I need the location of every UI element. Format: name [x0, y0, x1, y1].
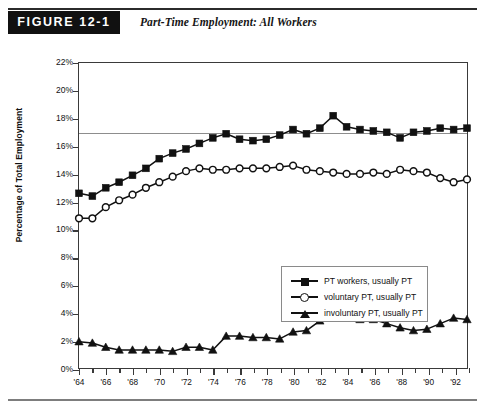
- x-tick: [375, 368, 376, 375]
- data-point: [437, 125, 444, 132]
- data-point: [370, 128, 377, 135]
- data-point: [316, 168, 323, 175]
- x-tick: [361, 368, 362, 373]
- x-tick-label: '64: [74, 377, 85, 387]
- x-tick: [79, 368, 80, 375]
- data-point: [464, 125, 471, 132]
- data-point: [343, 123, 350, 130]
- x-tick-label: '82: [316, 377, 327, 387]
- x-tick: [429, 368, 430, 375]
- x-tick: [456, 368, 457, 375]
- data-point: [357, 126, 364, 133]
- data-point: [370, 169, 377, 176]
- data-point: [410, 168, 417, 175]
- figure-number-label: FIGURE 12-1: [17, 16, 110, 29]
- data-point: [129, 172, 136, 179]
- data-point: [156, 179, 163, 186]
- data-point: [437, 175, 444, 182]
- series-square-filled: [76, 112, 471, 199]
- x-tick: [281, 368, 282, 373]
- data-point: [290, 126, 297, 133]
- legend-item-involuntary-pt: involuntary PT, usually PT: [282, 305, 427, 321]
- data-point: [76, 190, 83, 197]
- data-point: [89, 193, 96, 200]
- x-tick: [335, 368, 336, 373]
- data-point: [383, 129, 390, 136]
- data-point: [89, 215, 96, 222]
- triangle-marker-icon: [291, 306, 318, 320]
- x-tick: [321, 368, 322, 375]
- x-tick-label: '88: [396, 377, 407, 387]
- data-point: [183, 168, 190, 175]
- x-tick-label: '78: [262, 377, 273, 387]
- x-tick: [200, 368, 201, 373]
- x-tick-label: '90: [423, 377, 434, 387]
- x-tick: [469, 368, 470, 373]
- data-point: [196, 165, 203, 172]
- x-tick: [133, 368, 134, 375]
- data-point: [410, 129, 417, 136]
- x-tick-label: '84: [343, 377, 354, 387]
- figure-header: FIGURE 12-1 Part-Time Employment: All Wo…: [0, 0, 485, 44]
- data-point: [223, 130, 230, 137]
- plot-area: 0%2%4%6%8%10%12%14%16%18%20%22% '64'66'6…: [78, 62, 468, 369]
- x-tick: [442, 368, 443, 373]
- data-point: [276, 164, 283, 171]
- data-point: [250, 165, 257, 172]
- x-tick: [308, 368, 309, 373]
- data-point: [143, 165, 150, 172]
- series-plot: [79, 63, 467, 368]
- data-point: [302, 326, 310, 333]
- x-tick: [348, 368, 349, 375]
- data-point: [102, 184, 109, 191]
- data-point: [116, 197, 123, 204]
- x-tick-label: '72: [181, 377, 192, 387]
- y-tick-label: 6%: [41, 280, 73, 290]
- x-tick-label: '74: [208, 377, 219, 387]
- header-rule: [8, 8, 477, 10]
- x-tick: [415, 368, 416, 373]
- figure-number-badge: FIGURE 12-1: [8, 11, 120, 34]
- data-point: [102, 204, 109, 211]
- x-tick-label: '70: [154, 377, 165, 387]
- y-tick-label: 18%: [41, 113, 73, 123]
- x-tick-label: '76: [235, 377, 246, 387]
- data-point: [276, 132, 283, 139]
- data-point: [236, 136, 243, 143]
- x-tick: [267, 368, 268, 375]
- data-point: [223, 166, 230, 173]
- data-point: [357, 171, 364, 178]
- data-point: [290, 162, 297, 169]
- data-point: [263, 165, 270, 172]
- y-tick-label: 0%: [41, 364, 73, 374]
- x-tick-label: '66: [100, 377, 111, 387]
- data-point: [209, 166, 216, 173]
- data-point: [169, 173, 176, 180]
- data-point: [196, 140, 203, 147]
- data-point: [464, 176, 471, 183]
- x-tick: [146, 368, 147, 373]
- data-point: [316, 125, 323, 132]
- data-point: [169, 150, 176, 157]
- data-point: [450, 126, 457, 133]
- data-point: [303, 166, 310, 173]
- x-tick: [92, 368, 93, 373]
- y-tick-label: 2%: [41, 336, 73, 346]
- data-point: [209, 134, 216, 141]
- data-point: [397, 134, 404, 141]
- x-tick-label: '68: [127, 377, 138, 387]
- chart-legend: PT workers, usually PT voluntary PT, usu…: [281, 266, 428, 322]
- x-tick: [173, 368, 174, 373]
- y-axis-title: Percentage of Total Employment: [14, 90, 24, 260]
- data-point: [343, 171, 350, 178]
- x-tick: [294, 368, 295, 375]
- y-tick-label: 22%: [41, 57, 73, 67]
- square-marker-icon: [291, 274, 318, 288]
- series-circle-open: [76, 162, 471, 221]
- x-tick: [240, 368, 241, 375]
- y-tick-label: 8%: [41, 252, 73, 262]
- x-tick: [187, 368, 188, 375]
- y-tick-label: 20%: [41, 85, 73, 95]
- circle-marker-icon: [291, 290, 318, 304]
- data-point: [129, 191, 136, 198]
